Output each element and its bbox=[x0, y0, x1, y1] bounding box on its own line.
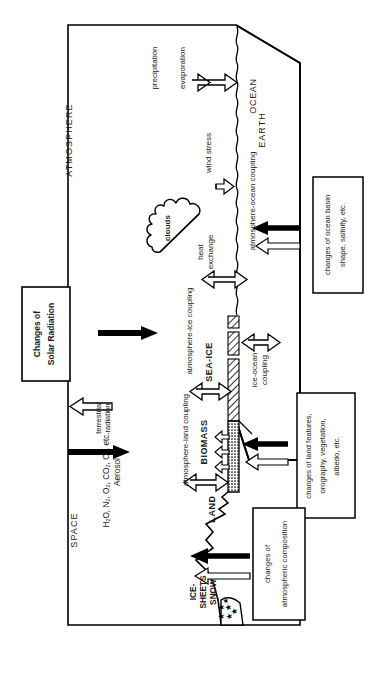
label-ocean: OCEAN bbox=[248, 78, 258, 114]
forcing-box-land-features[interactable]: changes of land features, orography, veg… bbox=[297, 393, 355, 518]
forcing-box-solar-radiation[interactable]: Changes of Solar Radiation bbox=[22, 287, 70, 381]
label-sea-ice: SEA-ICE bbox=[204, 342, 214, 381]
label-atmosphere: ATMOSPHERE bbox=[64, 103, 74, 176]
ocean-basin-line1: changes of ocean basin bbox=[323, 195, 332, 275]
label-atmosphere-ocean-coupling: atmosphere-ocean coupling bbox=[248, 152, 257, 251]
label-aerosol: Aerosol bbox=[113, 458, 122, 486]
label-evaporation: evaporation bbox=[178, 47, 187, 89]
diagram-canvas: ★ ★ ★ ★ ★ ★ bbox=[0, 0, 375, 681]
svg-text:★: ★ bbox=[222, 598, 229, 604]
label-atmosphere-ice-coupling: atmosphere-ice coupling bbox=[185, 287, 194, 374]
svg-text:★: ★ bbox=[230, 608, 239, 615]
ice-sheet-snow-region: ★ ★ ★ ★ ★ ★ bbox=[217, 598, 243, 625]
ocean-basin-line2: shape, salinity, etc. bbox=[338, 203, 347, 267]
solar-radiation-line2: Solar Radiation bbox=[46, 303, 56, 365]
label-terrestrial-radiation-2: radiation bbox=[103, 403, 112, 432]
label-heat-exchange-2: exchange bbox=[206, 234, 215, 269]
sea-ice-blocks bbox=[228, 316, 239, 421]
label-earth: EARTH bbox=[257, 112, 267, 147]
land-features-line1: changes of land features, bbox=[304, 413, 313, 498]
solar-radiation-line1: Changes of bbox=[32, 311, 42, 357]
label-atmosphere-land-coupling: atmosphere-land coupling bbox=[181, 394, 190, 486]
label-wind-stress: wind stress bbox=[204, 133, 213, 174]
label-precipitation: precipitation bbox=[150, 46, 159, 89]
atm-composition-line1: changes of bbox=[263, 544, 272, 583]
label-snow: SNOW bbox=[208, 579, 218, 605]
label-land: LAND bbox=[207, 495, 217, 522]
climate-system-diagram: ★ ★ ★ ★ ★ ★ bbox=[0, 0, 375, 681]
label-ice-sheets-line2: SHEETS bbox=[198, 575, 208, 609]
land-features-line2: orography, vegetation, bbox=[318, 418, 327, 493]
label-space: SPACE bbox=[69, 512, 79, 547]
label-atmospheric-constituents: H₂O, N₂, O₂, CO₂, O₃, etc. bbox=[102, 432, 111, 527]
atm-composition-line2: atmospheric composition bbox=[280, 521, 289, 607]
arrows-biomass-fluxes bbox=[215, 431, 229, 473]
forcing-box-atmospheric-composition[interactable]: changes of atmospheric composition bbox=[253, 508, 305, 620]
land-features-line3: albedo, etc. bbox=[332, 436, 341, 475]
label-clouds: clouds bbox=[163, 215, 172, 241]
label-terrestrial-radiation-1: terrestrial bbox=[94, 402, 103, 434]
label-biomass: BIOMASS bbox=[199, 420, 209, 465]
label-ice-ocean-coupling-1: ice-ocean bbox=[250, 353, 259, 388]
forcing-box-ocean-basin[interactable]: changes of ocean basin shape, salinity, … bbox=[313, 177, 363, 293]
label-ice-ocean-coupling-2: coupling bbox=[260, 355, 269, 385]
label-heat-exchange-1: heat bbox=[196, 243, 205, 259]
label-ice-sheets-line1: ICE- bbox=[188, 583, 198, 600]
